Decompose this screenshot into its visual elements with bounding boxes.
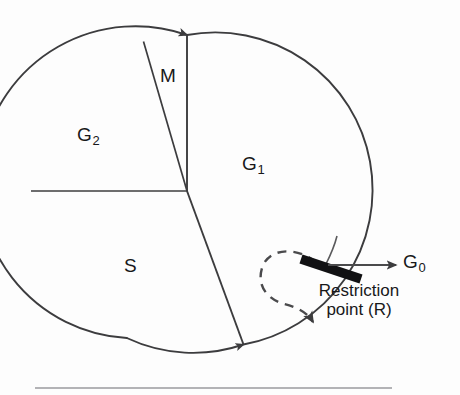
phase-label-g1-base: G: [242, 153, 257, 174]
phase-label-m-text: M: [160, 65, 176, 86]
restriction-connector: [326, 236, 337, 264]
phase-label-g2-base: G: [77, 124, 92, 145]
restriction-point-label: Restriction point (R): [299, 281, 419, 319]
phase-label-g1-subscript: 1: [257, 162, 265, 177]
restriction-label-line2: point (R): [299, 300, 419, 319]
sector-dividers: [31, 34, 244, 345]
phase-label-g0-base: G: [403, 251, 418, 272]
phase-label-g1: G1: [242, 153, 265, 177]
divider-m-g2: [144, 42, 188, 192]
phase-label-m: M: [160, 65, 176, 86]
restriction-label-line1: Restriction: [299, 281, 419, 300]
diagram-canvas: M G2 G1 S G0 Restriction point (R): [0, 0, 460, 395]
phase-label-g2: G2: [77, 124, 100, 148]
circle-arc-upper: [0, 26, 187, 338]
circle-arc-bottom: [127, 338, 244, 353]
phase-label-g2-subscript: 2: [92, 133, 100, 148]
phase-label-g0: G0: [403, 251, 426, 275]
phase-label-s: S: [124, 255, 137, 276]
restriction-tick-line: [326, 236, 337, 264]
cell-cycle-diagram-svg: [0, 0, 460, 395]
phase-label-s-text: S: [124, 255, 137, 276]
divider-s-g1: [187, 191, 244, 345]
phase-label-g0-subscript: 0: [418, 260, 426, 275]
